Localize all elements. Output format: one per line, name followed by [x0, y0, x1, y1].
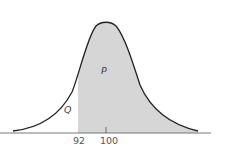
tick-label-92: 92 — [73, 135, 85, 146]
normal-distribution-chart: 92 100 P Q — [0, 0, 250, 157]
region-label-p: P — [101, 65, 107, 76]
tick-label-100: 100 — [100, 135, 118, 146]
region-label-q: Q — [64, 104, 72, 115]
